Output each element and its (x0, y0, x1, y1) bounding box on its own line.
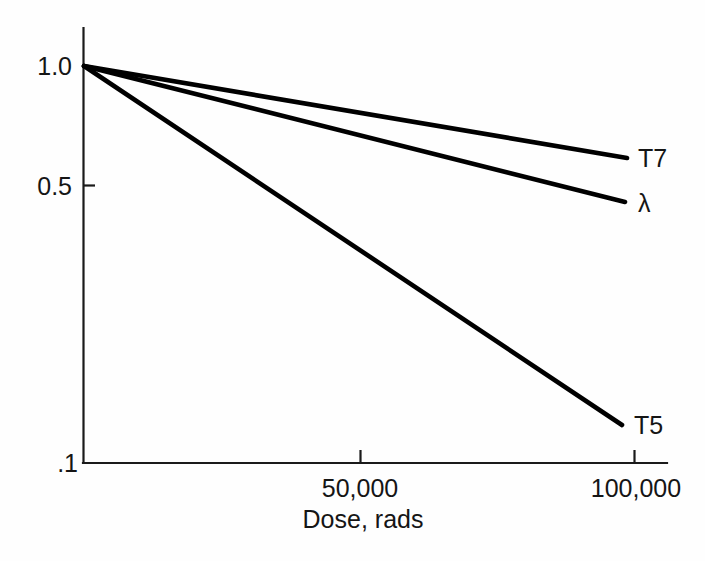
y-tick-label-1-0: 1.0 (37, 52, 72, 80)
survival-curve-chart: 1.0 0.5 .1 50,000 100,000 Dose, rads T7 … (0, 0, 705, 561)
x-tick-label-50000: 50,000 (322, 474, 398, 502)
series-label-t5: T5 (634, 411, 663, 439)
chart-page: 1.0 0.5 .1 50,000 100,000 Dose, rads T7 … (0, 0, 705, 561)
y-tick-label-0-1: .1 (57, 449, 78, 477)
y-tick-label-0-5: 0.5 (37, 172, 72, 200)
x-tick-label-100000: 100,000 (591, 474, 681, 502)
series-label-t7: T7 (638, 144, 667, 172)
x-axis-title: Dose, rads (303, 505, 424, 533)
series-label-lambda: λ (638, 189, 651, 217)
